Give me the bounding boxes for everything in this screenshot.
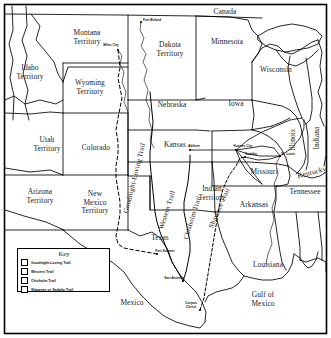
legend-item-goodnight-loving-trail[interactable]: Goodnight-Loving Trail: [21, 258, 107, 267]
city-label-kansas-city: Kansas City: [234, 145, 253, 149]
legend-item-shawnee-or-sedalia-trail[interactable]: Shawnee or Sedalia Trail: [21, 285, 107, 294]
city-dot-corpus-christi: [199, 309, 201, 311]
city-dot-abilene: [189, 149, 191, 151]
legend-label-goodnight-loving-trail: Goodnight-Loving Trail: [31, 261, 71, 265]
legend-title: Key: [21, 251, 107, 258]
legend-swatch-shawnee-or-sedalia-trail: [21, 286, 28, 293]
city-dot-miles-city: [117, 49, 119, 51]
map-legend: Key Goodnight-Loving Trail Western Trail…: [17, 248, 110, 292]
city-label-fort-sumner: Fort Sumner: [155, 250, 175, 254]
legend-label-western-trail: Western Trail: [31, 270, 54, 274]
legend-label-shawnee-or-sedalia-trail: Shawnee or Sedalia Trail: [31, 288, 73, 292]
legend-swatch-western-trail: [21, 268, 28, 275]
city-label-st-louis: St. Louis: [281, 153, 295, 157]
city-label-fort-buford: Fort Buford: [143, 19, 161, 23]
city-label-corpus-christi: Corpus Christi: [185, 302, 197, 309]
city-label-san-antonio: San Antonio: [164, 277, 183, 281]
city-label-abilene: Abilene: [188, 145, 200, 149]
city-dot-kansas-city: [235, 149, 237, 151]
legend-swatch-goodnight-loving-trail: [21, 259, 28, 266]
legend-item-western-trail[interactable]: Western Trail: [21, 267, 107, 276]
city-label-sedalia: Sedalia: [245, 153, 257, 157]
legend-swatch-chisholm-trail: [21, 277, 28, 284]
legend-item-chisholm-trail[interactable]: Chisholm Trail: [21, 276, 107, 285]
city-dot-fort-buford: [140, 21, 142, 23]
legend-label-chisholm-trail: Chisholm Trail: [31, 279, 56, 283]
cattle-trails-map: Idaho Territory Montana Territory Wyomin…: [0, 0, 331, 338]
city-label-miles-city: Miles City: [103, 44, 118, 48]
